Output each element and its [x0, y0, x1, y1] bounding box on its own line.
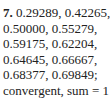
answer-line-5: 0.68377, 0.69849;	[3, 67, 110, 83]
exercise-number: 7.	[3, 5, 13, 20]
answer-conclusion: convergent, sum = 1	[3, 83, 110, 99]
answer-line-4: 0.64645, 0.66667,	[3, 52, 110, 68]
answer-line-2: 0.50000, 0.55279,	[3, 21, 110, 37]
answer-text: 0.29289, 0.42265,	[16, 5, 110, 20]
answer-block: 7. 0.29289, 0.42265, 0.50000, 0.55279, 0…	[3, 5, 110, 98]
answer-line-3: 0.59175, 0.62204,	[3, 36, 110, 52]
answer-line-1: 7. 0.29289, 0.42265,	[3, 5, 110, 21]
